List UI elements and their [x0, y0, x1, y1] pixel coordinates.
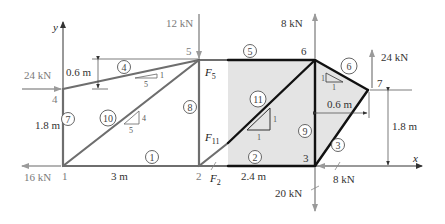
svg-text:4: 4 — [142, 114, 146, 123]
member-number-2: 2 — [249, 151, 262, 164]
svg-text:3: 3 — [336, 140, 341, 151]
member-number-1: 1 — [146, 151, 159, 164]
dim-label-rise-4-5: 0.6 m — [66, 66, 92, 78]
dim-label-1-2: 3 m — [111, 170, 128, 182]
load-label-n3-left: 8 kN — [333, 173, 355, 185]
node-label-2: 2 — [196, 170, 202, 182]
node-label-6: 6 — [301, 45, 307, 57]
node-label-1: 1 — [62, 170, 68, 182]
truss-diagram: y x 24 kN 12 kN 8 kN 24 kN 16 kN 20 kN 8… — [0, 0, 445, 224]
member-number-9: 9 — [299, 125, 312, 138]
svg-text:4: 4 — [122, 62, 127, 73]
y-axis-label: y — [52, 21, 58, 33]
x-axis-label: x — [412, 152, 418, 164]
node-label-3: 3 — [303, 152, 309, 164]
force-label-F2: F2 — [209, 172, 221, 187]
svg-text:7: 7 — [66, 114, 71, 125]
svg-text:1: 1 — [150, 152, 155, 163]
svg-text:5: 5 — [144, 80, 148, 89]
svg-text:5: 5 — [248, 46, 253, 57]
dim-label-2-3: 2.4 m — [241, 170, 267, 182]
node-label-7: 7 — [377, 77, 383, 89]
svg-text:10: 10 — [103, 113, 113, 124]
svg-text:9: 9 — [303, 126, 308, 137]
svg-text:11: 11 — [253, 94, 263, 105]
svg-text:1: 1 — [321, 74, 325, 83]
member-number-8: 8 — [184, 101, 197, 114]
member-11-cut-left — [199, 143, 228, 166]
member-number-11: 11 — [250, 91, 266, 107]
load-label-n7: 24 kN — [381, 51, 408, 63]
member-number-4: 4 — [118, 61, 131, 74]
member-number-7: 7 — [62, 113, 75, 126]
member-number-6: 6 — [341, 58, 357, 74]
load-label-n1: 16 kN — [24, 171, 51, 183]
dim-label-horiz-6-7: 0.6 m — [327, 98, 353, 110]
svg-text:8: 8 — [188, 102, 193, 113]
load-label-n4: 24 kN — [24, 69, 51, 81]
svg-text:5: 5 — [129, 126, 133, 135]
member-number-5: 5 — [244, 45, 257, 58]
svg-text:2: 2 — [253, 152, 258, 163]
force-label-F11: F11 — [204, 131, 219, 146]
svg-text:6: 6 — [347, 61, 352, 72]
svg-text:1: 1 — [332, 83, 336, 92]
dim-label-1-4: 1.8 m — [35, 119, 61, 131]
load-label-n5: 12 kN — [166, 17, 193, 29]
member-number-10: 10 — [100, 110, 116, 126]
node-label-4: 4 — [52, 93, 58, 105]
force-label-F5: F5 — [204, 66, 216, 81]
svg-text:1: 1 — [257, 133, 261, 142]
svg-text:1: 1 — [160, 71, 164, 80]
dim-label-height-7: 1.8 m — [392, 120, 418, 132]
member-number-3: 3 — [332, 139, 345, 152]
node-label-5: 5 — [186, 45, 192, 57]
load-label-n6: 8 kN — [281, 17, 303, 29]
load-label-n3-down: 20 kN — [275, 187, 302, 199]
svg-text:1: 1 — [273, 115, 277, 124]
